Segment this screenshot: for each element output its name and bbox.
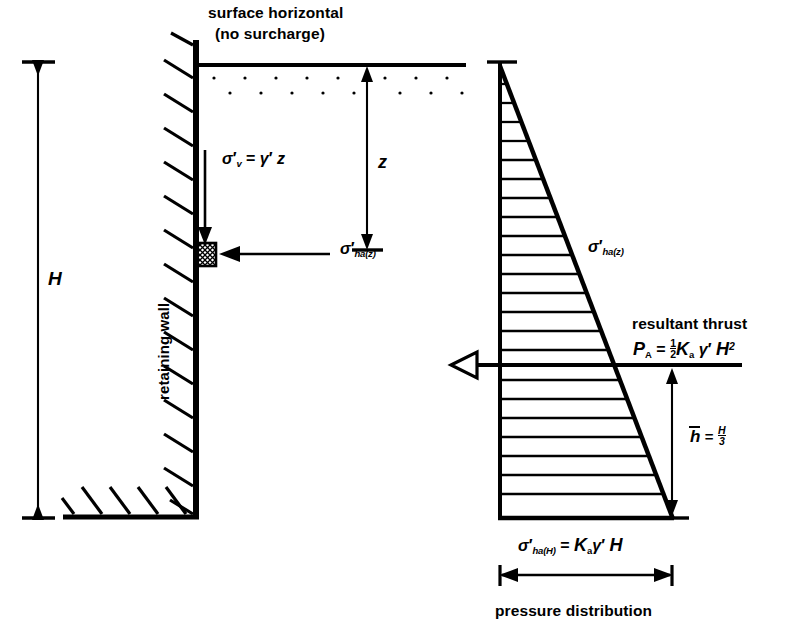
vertical-stress-label: σ′v = γ′ z: [222, 150, 285, 169]
equals-glyph: =: [560, 537, 569, 554]
sigma-glyph: σ: [340, 240, 351, 257]
K-glyph: K: [676, 339, 689, 359]
resultant-thrust-label: resultant thrust: [632, 315, 747, 333]
vertical-stress-arrow: [198, 150, 212, 245]
sigma-glyph: σ: [518, 537, 529, 554]
h-bar-glyph: h: [690, 427, 700, 447]
sigma-glyph: σ: [222, 150, 233, 167]
subscript-ha-H: ha(H): [532, 545, 555, 556]
prime-glyph-2: ′: [269, 150, 273, 167]
fraction-numerator: H: [718, 425, 726, 435]
z-glyph: z: [277, 150, 285, 167]
base-pressure-equation: σ′ha(H) = Kaγ′ H: [518, 535, 623, 556]
horizontal-stress-triangle-label: σ′ha(z): [588, 238, 624, 257]
gamma-glyph: γ: [260, 150, 269, 167]
gamma-glyph: γ: [699, 341, 708, 358]
subscript-a: a: [689, 349, 694, 360]
gamma-glyph: γ: [592, 537, 601, 554]
H-glyph: H: [610, 535, 623, 555]
subscript-ha-z: ha(z): [602, 246, 623, 257]
subscript-v: v: [236, 158, 241, 169]
retaining-wall-label-wrap: retaining wall: [155, 400, 252, 417]
soil-element: [196, 243, 216, 266]
resultant-thrust-equation: PA = 12Ka γ′ H2: [633, 338, 735, 360]
prime-glyph-2: ′: [601, 537, 605, 554]
retaining-wall: [62, 33, 199, 519]
retaining-wall-label: retaining wall: [155, 303, 172, 400]
soil-stipple: [212, 76, 463, 94]
H-glyph: H: [716, 339, 729, 359]
pressure-distribution-triangle: [487, 62, 674, 519]
pressure-distribution-caption: pressure distribution: [495, 602, 652, 620]
z-label: z: [378, 152, 387, 173]
equals-glyph: =: [705, 428, 714, 445]
horizontal-stress-arrow-z: [219, 246, 330, 262]
K-glyph: K: [574, 535, 587, 555]
H-over-3-fraction: H3: [718, 425, 726, 447]
h-label: H: [48, 268, 62, 290]
pressure-width-dimension: [499, 565, 673, 586]
equals-glyph: =: [656, 341, 665, 358]
wall-hatching: [164, 33, 193, 514]
subscript-ha-z: ha(z): [354, 248, 375, 259]
subscript-A: A: [645, 349, 652, 360]
surface-label-line1: surface horizontal: [208, 4, 343, 22]
surface-label-line2: (no surcharge): [215, 25, 325, 43]
exponent-2: 2: [729, 340, 735, 352]
prime-glyph: ′: [708, 341, 712, 358]
equals-glyph: =: [246, 150, 255, 167]
horizontal-stress-z-label: σ′ha(z): [340, 240, 376, 259]
base-hatching: [62, 487, 186, 514]
sigma-glyph: σ: [588, 238, 599, 255]
h-glyph: h: [690, 427, 700, 446]
figure-canvas: surface horizontal (no surcharge) H reta…: [0, 0, 806, 642]
fraction-denominator: 3: [718, 435, 726, 446]
hbar-equation: h = H3: [690, 425, 726, 447]
P-glyph: P: [633, 339, 645, 359]
h-dimension: [22, 60, 55, 520]
